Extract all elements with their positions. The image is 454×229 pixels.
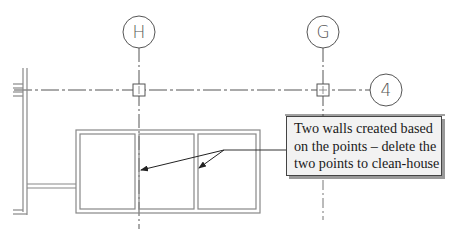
floor-plan-diagram: H G 4 xyxy=(0,0,454,229)
callout-line-2: on the points – delete the xyxy=(294,138,441,156)
grid-bubble-H: H xyxy=(123,16,155,48)
callout-line-1: Two walls created based xyxy=(294,120,441,138)
bubble-label-G: G xyxy=(316,22,329,42)
callout-box: Two walls created based on the points – … xyxy=(286,116,442,176)
grid-bubble-4: 4 xyxy=(370,74,402,106)
bubble-label-H: H xyxy=(133,22,146,42)
room-2 xyxy=(139,134,194,209)
building-outer-wall xyxy=(76,130,260,213)
grid-bubble-G: G xyxy=(307,16,339,48)
bubble-label-4: 4 xyxy=(381,80,392,100)
room-3 xyxy=(198,134,256,209)
callout-arrow-1 xyxy=(141,150,224,170)
room-1 xyxy=(80,134,135,209)
callout-line-3: two points to clean-house xyxy=(294,155,441,173)
connector-wall xyxy=(27,184,76,188)
